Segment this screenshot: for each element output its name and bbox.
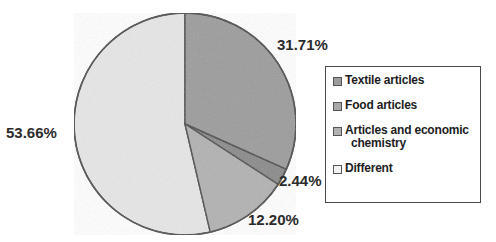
legend-label-textile: Textile articles <box>345 74 424 87</box>
legend-swatch-icon-textile <box>333 77 342 86</box>
legend-item-textile[interactable]: Textile articles <box>333 74 475 87</box>
pie-label-chemistry: 2.44% <box>279 172 322 189</box>
legend-label-chemistry-line1: Articles and economic <box>345 123 469 137</box>
legend-label-different: Different <box>345 162 393 175</box>
legend-swatch-icon-different <box>333 165 342 174</box>
legend-item-different[interactable]: Different <box>333 162 475 175</box>
pie-label-food: 12.20% <box>248 211 299 228</box>
legend-swatch-icon-food <box>333 102 342 111</box>
legend: Textile articles Food articles Articles … <box>325 66 481 203</box>
pie-chart-svg <box>73 12 297 236</box>
pie-label-different: 53.66% <box>6 124 57 141</box>
legend-label-chemistry: Articles and economicchemistry <box>345 124 469 150</box>
legend-swatch-icon-chemistry <box>333 127 342 136</box>
legend-item-food[interactable]: Food articles <box>333 99 475 112</box>
legend-item-chemistry[interactable]: Articles and economicchemistry <box>333 124 475 150</box>
legend-label-food: Food articles <box>345 99 417 112</box>
pie-label-textile: 31.71% <box>277 36 328 53</box>
chart-page: 31.71% 2.44% 12.20% 53.66% Textile artic… <box>0 0 496 242</box>
pie-chart <box>73 12 297 236</box>
legend-label-chemistry-line2: chemistry <box>345 137 469 150</box>
